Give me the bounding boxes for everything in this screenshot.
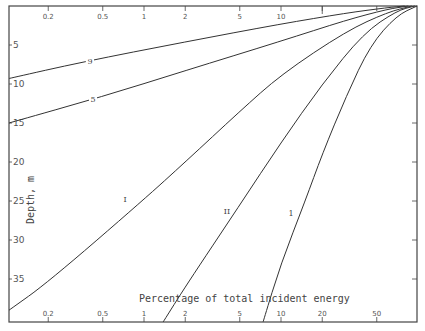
x-tick-label-bottom: 50: [372, 310, 381, 318]
x-tick-label-bottom: 0.5: [97, 310, 108, 318]
curves: 95III1: [9, 6, 417, 322]
bottom-x-axis: 0.20.5125102050: [43, 310, 382, 322]
y-tick-label: 35: [13, 274, 24, 284]
curve-label: II: [224, 207, 230, 216]
x-tick-label-bottom: 2: [183, 310, 187, 318]
chart: 0.20.512510 0.20.5125102050 510152025303…: [0, 0, 425, 331]
x-tick-label-top: 1: [142, 13, 146, 21]
plot-frame: [9, 6, 417, 322]
curve-label: 1: [288, 209, 293, 218]
curve-I: [9, 6, 412, 310]
x-tick-label-bottom: 5: [238, 310, 242, 318]
x-axis-title: Percentage of total incident energy: [139, 293, 350, 304]
curve-label: 9: [87, 57, 92, 66]
top-x-axis: 0.20.512510: [43, 6, 377, 21]
y-tick-label: 25: [13, 196, 24, 206]
curve-II: [163, 6, 415, 322]
x-tick-label-bottom: 10: [277, 310, 286, 318]
y-tick-label: 20: [13, 157, 25, 167]
x-tick-label-top: 5: [238, 13, 242, 21]
x-tick-label-top: 0.2: [43, 13, 54, 21]
x-tick-label-top: 10: [277, 13, 286, 21]
x-tick-label-bottom: 20: [318, 310, 327, 318]
curve-label: 5: [90, 95, 95, 104]
right-y-axis: [412, 45, 417, 279]
curve-1: [263, 6, 417, 322]
y-tick-label: 10: [13, 79, 25, 89]
x-tick-label-bottom: 0.2: [43, 310, 54, 318]
y-axis-title: Depth, m: [25, 176, 36, 224]
x-tick-label-top: 0.5: [97, 13, 108, 21]
curve-9: [9, 6, 405, 79]
curve-5: [9, 6, 408, 123]
x-tick-label-bottom: 1: [142, 310, 146, 318]
y-tick-label: 5: [13, 40, 19, 50]
y-tick-label: 30: [13, 235, 25, 245]
curve-label: I: [123, 195, 126, 204]
x-tick-label-top: 2: [183, 13, 187, 21]
